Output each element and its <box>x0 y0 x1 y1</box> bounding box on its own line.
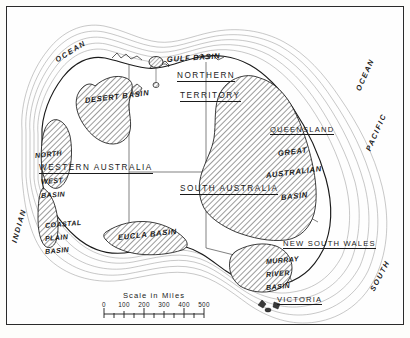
scale-tick-100: 100 <box>118 301 129 308</box>
basin-murray-river <box>229 244 292 292</box>
scale-tick-400: 400 <box>178 301 189 308</box>
australia-artesian-basins-map: OCEAN INDIAN PACIFIC OCEAN SOUTH NORTHER… <box>0 0 410 338</box>
map-graphics <box>0 0 410 338</box>
scale-tick-500: 500 <box>198 301 209 308</box>
basin-north-west <box>41 120 71 189</box>
gulf-basin-node <box>153 82 159 87</box>
scale-tick-200: 200 <box>138 301 149 308</box>
victoria-coast-detail <box>258 300 280 312</box>
scale-bar-tick-labels: 0 100 200 300 400 500 <box>96 301 212 310</box>
basin-gulf <box>149 57 163 68</box>
scale-bar-title: Scale in Miles <box>96 291 212 300</box>
scale-tick-0: 0 <box>102 301 106 308</box>
scale-bar: Scale in Miles 0 100 200 300 400 500 <box>96 291 212 310</box>
scale-tick-300: 300 <box>158 301 169 308</box>
